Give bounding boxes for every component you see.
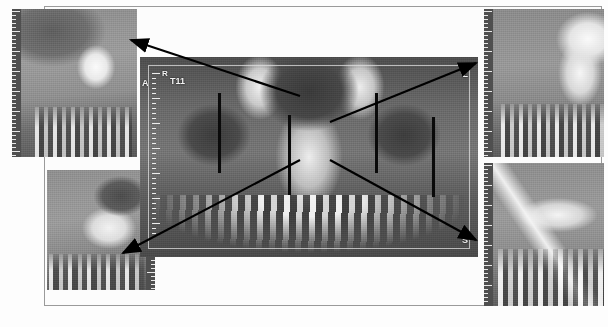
ruler-top-left [12,9,21,157]
ruler-coronal [152,71,160,239]
orientation-label-anterior: A [142,79,149,88]
slice-marker[interactable] [288,115,291,195]
cross-section-panel-bottom-left[interactable] [47,170,155,290]
cross-section-panel-top-right[interactable] [484,9,604,157]
slice-id-label: T11 [170,77,185,86]
slice-marker[interactable] [432,117,435,197]
slice-marker[interactable] [375,93,378,173]
cross-section-panel-bottom-right[interactable] [484,163,604,306]
coronal-panel[interactable]: A R T11 L S [140,57,478,257]
orientation-label-left: L [463,70,469,79]
ruler-top-right [484,9,493,157]
orientation-label-superior: S [462,236,468,245]
figure-root: A R T11 L S [0,0,608,327]
scan-image-top-left [12,9,137,157]
slice-marker[interactable] [218,93,221,173]
scan-image-bottom-right [484,163,604,306]
cross-section-panel-top-left[interactable] [12,9,137,157]
scan-image-bottom-left [47,170,155,290]
scan-image-top-right [484,9,604,157]
orientation-label-right: R [162,70,168,78]
scan-image-coronal [140,57,478,257]
ruler-bottom-right [484,163,493,306]
